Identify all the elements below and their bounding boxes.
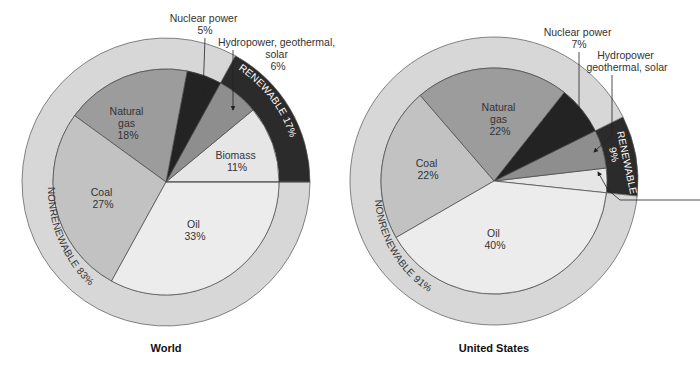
us-chart-title: United States bbox=[459, 342, 529, 354]
us-coal-label: Coal 22% bbox=[416, 157, 441, 181]
world-chart-title: World bbox=[151, 342, 182, 354]
us-oil-label: Oil 40% bbox=[484, 227, 505, 251]
world-pie-chart: Natural gas 18% Coal 27% Oil 33% Biomass… bbox=[22, 12, 338, 354]
us-hydro-callout: Hydropower geothermal, solar bbox=[586, 49, 668, 73]
us-pie-chart: Natural gas 22% Coal 22% Oil 40% Nuclear… bbox=[350, 26, 700, 354]
world-coal-label: Coal 27% bbox=[91, 186, 116, 210]
energy-charts-canvas: Natural gas 18% Coal 27% Oil 33% Biomass… bbox=[0, 0, 700, 366]
us-nuclear-callout: Nuclear power 7% bbox=[544, 26, 615, 50]
world-oil-label: Oil 33% bbox=[184, 218, 205, 242]
world-nuclear-callout: Nuclear power 5% bbox=[170, 12, 241, 36]
